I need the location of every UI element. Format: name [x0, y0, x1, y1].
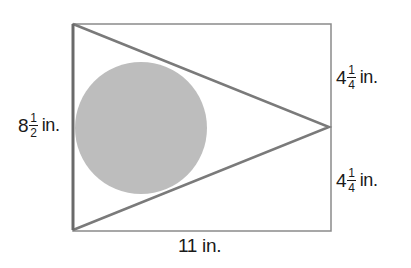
fraction-numerator: 1 — [347, 64, 355, 78]
label-unit: in. — [360, 170, 378, 191]
fraction: 1 2 — [29, 112, 37, 139]
inscribed-circle — [75, 62, 207, 194]
label-bottom-width: 11 in. — [178, 235, 221, 257]
fraction-numerator: 1 — [347, 167, 355, 181]
label-whole: 4 — [336, 67, 346, 89]
fraction-denominator: 4 — [348, 78, 354, 91]
fraction: 1 4 — [347, 64, 355, 91]
fraction-denominator: 4 — [348, 181, 354, 194]
label-unit: in. — [42, 115, 60, 136]
fraction: 1 4 — [347, 167, 355, 194]
label-whole: 8 — [18, 115, 28, 137]
label-right-bottom: 4 1 4 in. — [336, 167, 378, 194]
label-whole: 4 — [336, 170, 346, 192]
label-right-top: 4 1 4 in. — [336, 64, 378, 91]
diagram-canvas — [0, 0, 411, 268]
fraction-numerator: 1 — [29, 112, 37, 126]
label-left-height: 8 1 2 in. — [18, 112, 60, 139]
label-unit: in. — [360, 67, 378, 88]
fraction-denominator: 2 — [30, 126, 36, 139]
label-text: 11 in. — [178, 235, 221, 257]
